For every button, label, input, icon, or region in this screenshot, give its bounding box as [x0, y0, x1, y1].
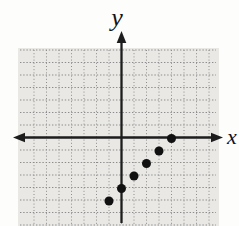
- x-axis-label: x: [226, 124, 237, 149]
- data-point: [105, 197, 114, 206]
- coordinate-plane-figure: y x: [0, 0, 239, 226]
- data-point: [117, 184, 126, 193]
- y-axis-top-arrow-icon: [117, 31, 127, 43]
- plot-canvas: y x: [0, 0, 239, 226]
- data-point: [142, 159, 151, 168]
- data-point: [130, 172, 139, 181]
- y-axis-label: y: [108, 3, 123, 32]
- data-point: [167, 134, 176, 143]
- data-point: [155, 147, 164, 156]
